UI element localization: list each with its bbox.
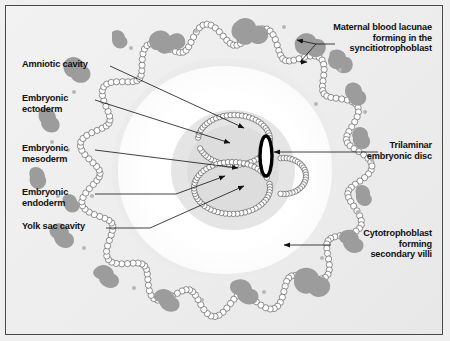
label-maternal-blood-lacunae: Maternal blood lacunae forming in the sy… [314,22,432,54]
label-embryonic-ectoderm: Embryonic ectoderm [22,93,68,114]
label-yolk-sac-cavity: Yolk sac cavity [22,221,85,232]
label-amniotic-cavity: Amniotic cavity [22,59,88,70]
label-trilaminar-embryonic-disc: Trilaminar embryonic disc [340,140,432,161]
diagram-figure: Amniotic cavity Embryonic ectoderm Embry… [0,0,450,341]
label-embryonic-mesoderm: Embryonic mesoderm [22,143,68,164]
label-cytotrophoblast-villi: Cytotrophoblast forming secondary villi [334,228,432,260]
label-embryonic-endoderm: Embryonic endoderm [22,187,68,208]
trilaminar-disc-shape [260,136,272,176]
